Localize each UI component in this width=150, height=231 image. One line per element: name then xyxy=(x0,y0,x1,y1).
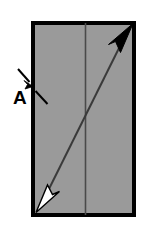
callout-label-a: A xyxy=(13,87,27,108)
callout-leader-segment-upper xyxy=(18,69,30,82)
diagram-canvas: A xyxy=(0,0,150,231)
figure-container: A xyxy=(0,0,150,231)
